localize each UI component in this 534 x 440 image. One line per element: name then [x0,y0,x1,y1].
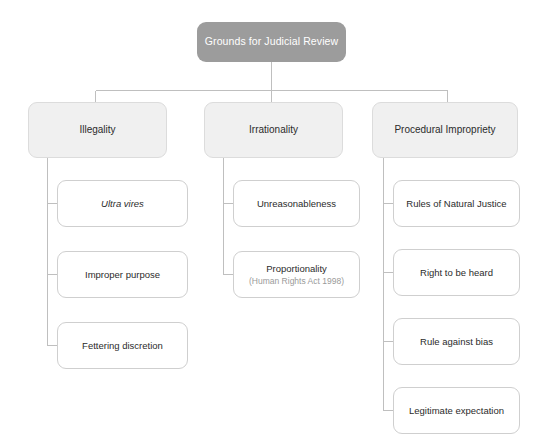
branch-node-label: Irrationality [249,124,298,137]
leaf-node-fettering-discretion[interactable]: Fettering discretion [57,322,188,369]
branch-node-label: Illegality [79,124,115,137]
branch-node-irrationality[interactable]: Irrationality [204,102,343,158]
leaf-node-label: Rule against bias [420,336,493,348]
leaf-node-label: Rules of Natural Justice [406,198,506,210]
root-node-grounds-for-judicial-review[interactable]: Grounds for Judicial Review [197,22,346,62]
leaf-node-right-to-be-heard[interactable]: Right to be heard [393,249,520,296]
leaf-node-ultra-vires[interactable]: Ultra vires [57,180,188,227]
leaf-node-legitimate-expectation[interactable]: Legitimate expectation [393,387,520,434]
leaf-node-rules-of-natural-justice[interactable]: Rules of Natural Justice [393,180,520,227]
leaf-node-label: Ultra vires [101,198,144,210]
judicial-review-diagram: Grounds for Judicial Review Illegality I… [0,0,534,440]
leaf-node-proportionality[interactable]: Proportionality (Human Rights Act 1998) [233,251,360,298]
leaf-node-rule-against-bias[interactable]: Rule against bias [393,318,520,365]
leaf-node-unreasonableness[interactable]: Unreasonableness [233,180,360,227]
leaf-node-label: Unreasonableness [257,198,336,210]
branch-node-illegality[interactable]: Illegality [28,102,167,158]
leaf-node-label: Proportionality [266,263,327,275]
leaf-node-improper-purpose[interactable]: Improper purpose [57,251,188,298]
leaf-node-label: Improper purpose [85,269,160,281]
leaf-node-label: Fettering discretion [82,340,163,352]
leaf-node-sublabel: (Human Rights Act 1998) [249,276,344,287]
leaf-node-label: Legitimate expectation [409,405,504,417]
root-node-label: Grounds for Judicial Review [205,35,338,48]
branch-node-label: Procedural Impropriety [394,124,495,137]
leaf-node-label: Right to be heard [420,267,493,279]
branch-node-procedural-impropriety[interactable]: Procedural Impropriety [372,102,518,158]
